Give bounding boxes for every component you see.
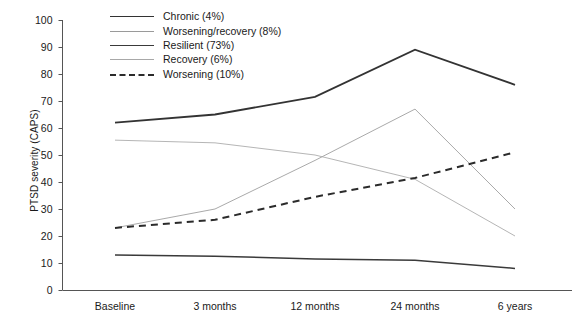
y-tick-label: 20 xyxy=(23,231,53,241)
legend-label: Resilient (73%) xyxy=(163,39,234,51)
y-tick-label: 0 xyxy=(23,285,53,295)
x-tick-label: 24 months xyxy=(390,300,439,312)
ptsd-trajectory-chart: PTSD severity (CAPS) 0102030405060708090… xyxy=(0,0,579,331)
legend-item: Recovery (6%) xyxy=(110,52,281,66)
legend-label: Chronic (4%) xyxy=(163,10,224,22)
y-tick-label: 70 xyxy=(23,96,53,106)
legend-item: Resilient (73%) xyxy=(110,38,281,52)
legend-line-swatch xyxy=(110,53,154,65)
y-tick-label: 100 xyxy=(23,15,53,25)
y-tick-label: 50 xyxy=(23,150,53,160)
legend-item: Worsening (10%) xyxy=(110,67,281,81)
y-tick-label: 40 xyxy=(23,177,53,187)
legend-item: Chronic (4%) xyxy=(110,9,281,23)
y-tick-label: 80 xyxy=(23,69,53,79)
legend-line-swatch xyxy=(110,68,154,80)
chart-legend: Chronic (4%)Worsening/recovery (8%)Resil… xyxy=(110,9,281,81)
y-tick-label: 60 xyxy=(23,123,53,133)
legend-item: Worsening/recovery (8%) xyxy=(110,23,281,37)
legend-label: Recovery (6%) xyxy=(163,53,232,65)
x-tick-label: 12 months xyxy=(290,300,339,312)
legend-line-swatch xyxy=(110,25,154,37)
x-tick-label: Baseline xyxy=(95,300,135,312)
y-tick-label: 10 xyxy=(23,258,53,268)
series-line-1 xyxy=(115,109,515,228)
x-tick-label: 6 years xyxy=(498,300,532,312)
legend-label: Worsening (10%) xyxy=(163,68,244,80)
series-lines xyxy=(115,50,515,269)
legend-line-swatch xyxy=(110,39,154,51)
plot-area xyxy=(0,0,579,331)
y-tick-marks xyxy=(59,21,63,291)
x-tick-label: 3 months xyxy=(193,300,236,312)
legend-label: Worsening/recovery (8%) xyxy=(163,25,281,37)
y-tick-label: 30 xyxy=(23,204,53,214)
series-line-3 xyxy=(115,140,515,236)
series-line-2 xyxy=(115,255,515,269)
y-tick-label: 90 xyxy=(23,42,53,52)
legend-line-swatch xyxy=(110,10,154,22)
